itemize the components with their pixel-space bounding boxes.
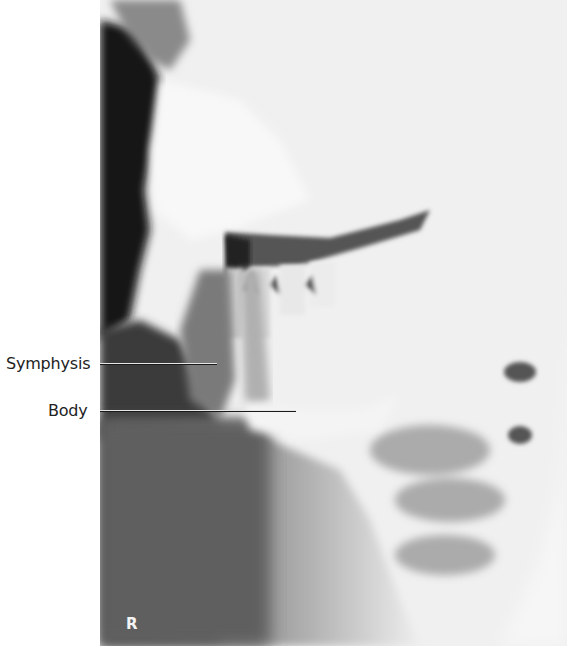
leader-line-symphysis xyxy=(100,364,217,365)
label-body: Body xyxy=(48,401,88,420)
leader-line-body xyxy=(100,411,296,412)
side-marker-right: R xyxy=(126,615,138,633)
label-symphysis: Symphysis xyxy=(6,354,90,373)
radiograph-image xyxy=(100,0,567,646)
radiograph-rendering xyxy=(100,0,567,646)
